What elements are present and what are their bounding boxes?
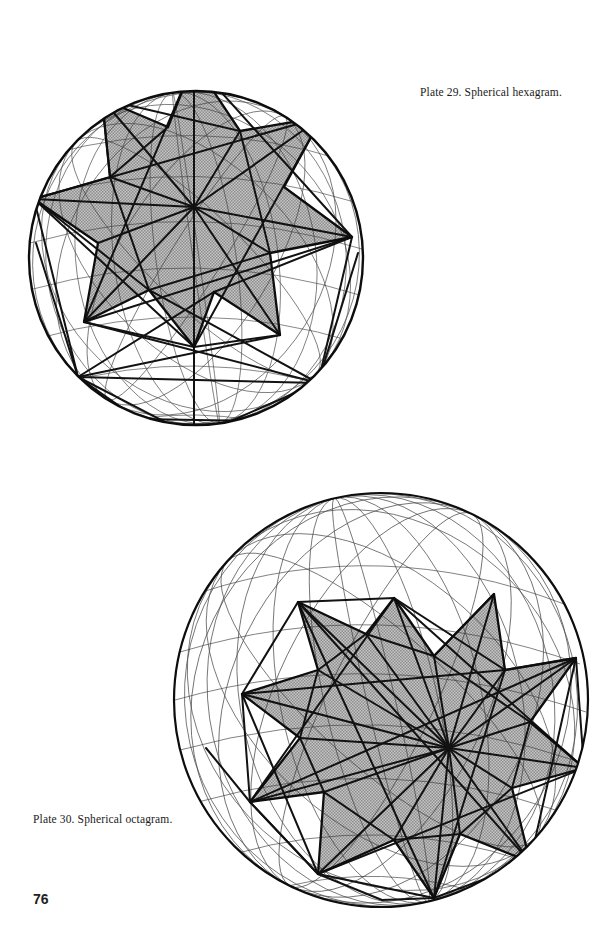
figure-spherical-hexagram <box>18 47 378 477</box>
book-page: Plate 29. Spherical hexagram. Plate 30. … <box>0 0 609 949</box>
hexagram-sphere-contents <box>18 47 378 477</box>
figure-spherical-octagram <box>172 482 592 912</box>
caption-plate-30: Plate 30. Spherical octagram. <box>33 813 172 825</box>
caption-plate-29: Plate 29. Spherical hexagram. <box>420 86 562 98</box>
page-number: 76 <box>33 891 49 907</box>
